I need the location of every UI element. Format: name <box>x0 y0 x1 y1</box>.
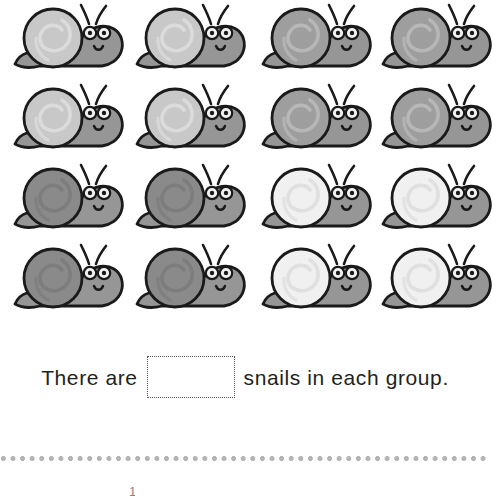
snail-r3c2 <box>132 162 254 244</box>
snail-illustration <box>258 162 380 244</box>
snail-r2c1 <box>10 82 132 164</box>
snail-illustration <box>378 162 496 244</box>
sentence-row: There are snails in each group. <box>0 352 490 402</box>
snail-illustration <box>378 82 496 164</box>
snail-grid <box>0 0 490 330</box>
snail-r4c2 <box>132 242 254 324</box>
snail-r1c4 <box>378 2 496 84</box>
snail-r3c4 <box>378 162 496 244</box>
snail-illustration <box>258 242 380 324</box>
snail-illustration <box>132 242 254 324</box>
snail-illustration <box>132 162 254 244</box>
snail-illustration <box>378 2 496 84</box>
snail-r2c4 <box>378 82 496 164</box>
snail-r1c1 <box>10 2 132 84</box>
snail-illustration <box>10 82 132 164</box>
snail-illustration <box>258 2 380 84</box>
snail-r1c3 <box>258 2 380 84</box>
snail-r1c2 <box>132 2 254 84</box>
snail-illustration <box>10 242 132 324</box>
snail-illustration <box>132 82 254 164</box>
snail-r2c3 <box>258 82 380 164</box>
snail-illustration <box>10 2 132 84</box>
snail-illustration <box>378 242 496 324</box>
answer-input-box[interactable] <box>147 356 235 398</box>
sentence-prefix: There are <box>41 367 137 388</box>
snail-illustration <box>10 162 132 244</box>
snail-illustration <box>258 82 380 164</box>
snail-r3c3 <box>258 162 380 244</box>
snail-r4c1 <box>10 242 132 324</box>
snail-r4c3 <box>258 242 380 324</box>
dotted-separator <box>0 455 490 462</box>
bottom-page-mark: 1 <box>129 487 135 496</box>
snail-illustration <box>132 2 254 84</box>
snail-r2c2 <box>132 82 254 164</box>
snail-r3c1 <box>10 162 132 244</box>
snail-r4c4 <box>378 242 496 324</box>
sentence-suffix: snails in each group. <box>244 367 449 388</box>
